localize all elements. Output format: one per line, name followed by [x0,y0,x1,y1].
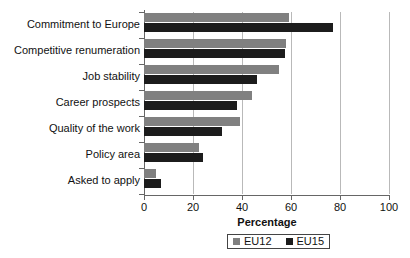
category-label: Quality of the work [8,122,144,134]
bar-eu15 [144,127,222,136]
category-label: Policy area [8,148,144,160]
bar-eu12 [144,117,240,126]
bar-eu12 [144,143,199,152]
x-axis-tick-label: 40 [222,201,262,213]
bar-eu12 [144,91,252,100]
legend-item-eu12: EU12 [233,236,272,247]
x-axis-tick-label: 60 [271,201,311,213]
category-label: Career prospects [8,96,144,108]
bar-chart: Commitment to Europe Competitive renumer… [0,0,410,258]
x-axis-tick-label: 100 [369,201,409,213]
bar-eu15 [144,153,203,162]
legend-label: EU12 [244,236,272,247]
gridline [389,12,390,194]
x-axis-tick-label: 80 [320,201,360,213]
bar-eu15 [144,179,161,188]
gridline [291,12,292,194]
gridline [340,12,341,194]
plot-area [144,12,389,194]
bar-eu12 [144,13,289,22]
dark-swatch-icon [286,238,293,245]
x-axis-line [144,195,390,196]
x-axis-tick [193,195,194,200]
x-axis-tick [242,195,243,200]
x-axis-tick [144,195,145,200]
x-axis-tick [291,195,292,200]
category-label: Commitment to Europe [8,18,144,30]
x-axis-tick [340,195,341,200]
legend-label: EU15 [297,236,325,247]
category-label: Competitive renumeration [8,44,144,56]
bar-eu15 [144,23,333,32]
x-axis-tick-label: 0 [124,201,164,213]
bar-eu15 [144,75,257,84]
bar-eu12 [144,39,286,48]
x-axis-tick-label: 20 [173,201,213,213]
bar-eu15 [144,101,237,110]
category-label: Job stability [8,70,144,82]
x-axis-title: Percentage [144,216,390,228]
bar-eu12 [144,65,279,74]
bar-eu15 [144,49,285,58]
bar-eu12 [144,169,156,178]
legend-item-eu15: EU15 [286,236,325,247]
gray-swatch-icon [233,238,240,245]
category-label: Asked to apply [8,174,144,186]
category-axis-labels: Commitment to Europe Competitive renumer… [0,12,144,194]
legend: EU12 EU15 [227,234,330,249]
x-axis-tick [389,195,390,200]
